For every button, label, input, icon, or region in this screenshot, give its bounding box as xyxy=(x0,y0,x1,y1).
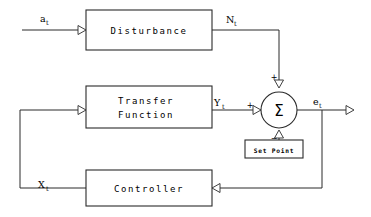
summer-sign-left: + xyxy=(247,101,254,110)
sigma-icon: Σ xyxy=(274,102,283,120)
block-diagram-svg: Disturbance Transfer Function Controller… xyxy=(0,0,371,217)
wire-controller-to-transfer xyxy=(20,110,86,188)
arrowhead-summer-left-input xyxy=(253,106,261,115)
signal-sub-e: t xyxy=(319,102,322,110)
block-transfer-function-label-line2: Function xyxy=(118,110,174,120)
signal-sub-a: t xyxy=(46,19,49,27)
block-set-point-label: Set Point xyxy=(254,147,295,154)
block-diagram-canvas: Disturbance Transfer Function Controller… xyxy=(0,0,371,217)
block-transfer-function[interactable] xyxy=(86,86,212,128)
signal-label-Y: Y xyxy=(213,97,221,108)
block-controller-label: Controller xyxy=(114,184,184,194)
arrowhead-output-e xyxy=(346,106,354,115)
arrowhead-controller-input xyxy=(212,184,220,193)
signal-sub-Y: t xyxy=(222,103,225,111)
summer-sign-bottom: − xyxy=(271,134,278,143)
signal-sub-X: t xyxy=(46,185,49,193)
wire-disturbance-to-summer xyxy=(212,30,279,84)
block-transfer-function-label-line1: Transfer xyxy=(118,96,174,106)
summer-sign-top: + xyxy=(271,73,278,82)
block-disturbance-label: Disturbance xyxy=(110,26,187,36)
signal-sub-N: t xyxy=(234,20,237,28)
arrowhead-transfer-input xyxy=(78,106,86,115)
signal-label-X: X xyxy=(38,179,45,190)
arrowhead-disturbance-input xyxy=(78,26,86,35)
